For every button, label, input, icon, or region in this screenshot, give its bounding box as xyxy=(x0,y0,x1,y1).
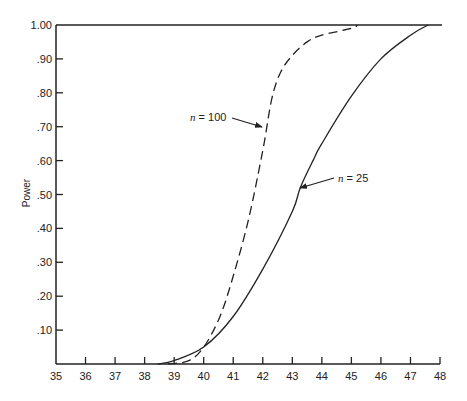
arrow-icon xyxy=(232,118,262,127)
x-tick-label: 39 xyxy=(168,370,180,382)
y-tick-label: .90 xyxy=(37,53,52,65)
annotations: n = 100n = 25 xyxy=(190,111,368,188)
y-tick-label: 1.00 xyxy=(31,19,52,31)
x-tick-label: 41 xyxy=(227,370,239,382)
x-tick-label: 43 xyxy=(286,370,298,382)
x-tick-label: 35 xyxy=(50,370,62,382)
x-tick-label: 36 xyxy=(79,370,91,382)
axes xyxy=(56,25,442,364)
label-n-100: n = 100 xyxy=(190,111,226,123)
y-tick-label: .30 xyxy=(37,256,52,268)
curve-n-100 xyxy=(168,25,357,364)
y-tick-label: .60 xyxy=(37,155,52,167)
y-tick-label: .10 xyxy=(37,324,52,336)
y-tick-label: .70 xyxy=(37,121,52,133)
x-axis-ticks: 3536373839404142434445464748 xyxy=(50,357,446,382)
x-tick-label: 45 xyxy=(345,370,357,382)
power-curve-chart: .10.20.30.40.50.60.70.80.901.00 35363738… xyxy=(0,0,467,401)
y-tick-label: .20 xyxy=(37,290,52,302)
y-tick-label: .80 xyxy=(37,87,52,99)
curve-n-25 xyxy=(158,25,428,364)
x-tick-label: 48 xyxy=(434,370,446,382)
x-tick-label: 47 xyxy=(404,370,416,382)
x-tick-label: 40 xyxy=(198,370,210,382)
label-n-25: n = 25 xyxy=(338,172,368,184)
x-tick-label: 42 xyxy=(257,370,269,382)
arrow-icon xyxy=(300,178,334,188)
x-tick-label: 44 xyxy=(316,370,328,382)
x-tick-label: 46 xyxy=(375,370,387,382)
y-tick-label: .50 xyxy=(37,189,52,201)
y-axis-ticks: .10.20.30.40.50.60.70.80.901.00 xyxy=(31,19,63,336)
y-tick-label: .40 xyxy=(37,222,52,234)
data-series xyxy=(158,25,428,364)
x-tick-label: 38 xyxy=(138,370,150,382)
x-tick-label: 37 xyxy=(109,370,121,382)
y-axis-label: Power xyxy=(21,178,32,207)
